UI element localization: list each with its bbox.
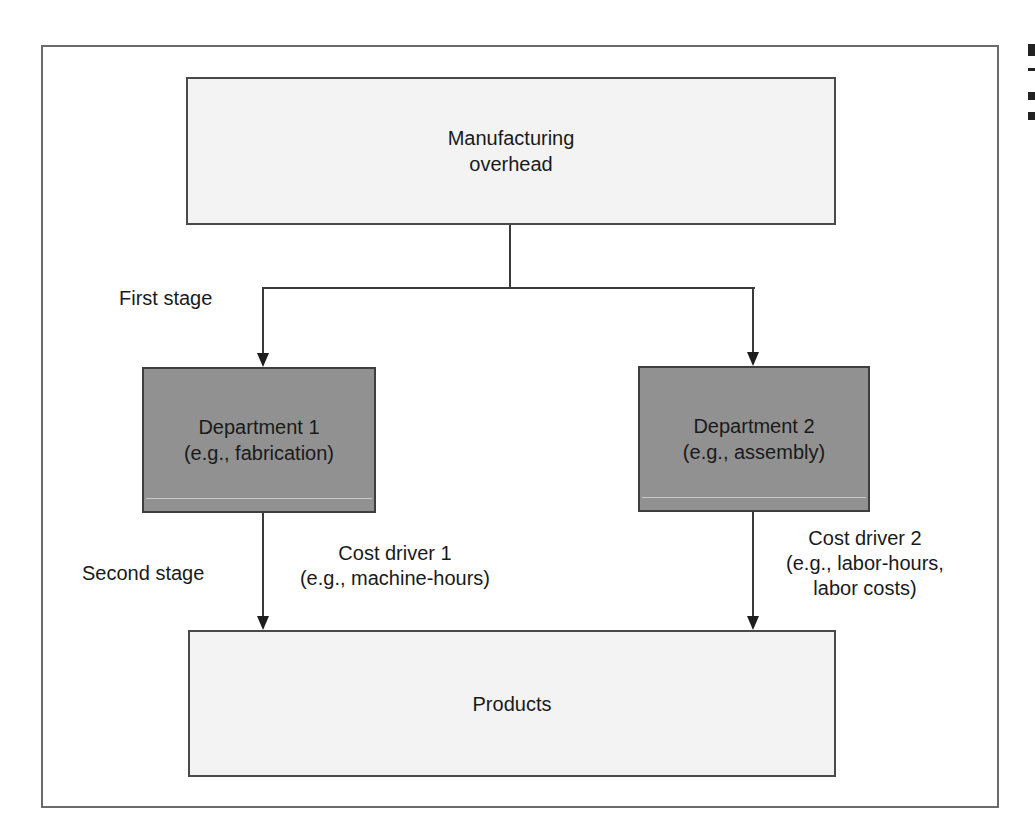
cropped-glyph <box>1028 68 1035 71</box>
cropped-glyph <box>1028 44 1035 56</box>
products-label: Products <box>473 691 552 717</box>
department-1-label: Department 1 (e.g., fabrication) <box>184 414 334 466</box>
box-highlight-line <box>146 498 372 499</box>
cropped-glyph <box>1028 112 1035 120</box>
second-stage-arrow-dept2-shaft <box>752 512 754 617</box>
department-2-label: Department 2 (e.g., assembly) <box>683 413 825 465</box>
department-2-node: Department 2 (e.g., assembly) <box>638 366 870 512</box>
department-1-node: Department 1 (e.g., fabrication) <box>142 367 376 513</box>
second-stage-arrow-dept1-shaft <box>262 513 264 617</box>
first-stage-arrow-dept1-shaft <box>262 288 264 354</box>
cropped-glyph <box>1028 92 1035 100</box>
arrow-down-icon <box>747 616 759 630</box>
box-highlight-line <box>642 497 866 498</box>
manufacturing-overhead-label: Manufacturing overhead <box>448 125 575 177</box>
cost-driver-1-label: Cost driver 1 (e.g., machine-hours) <box>275 541 515 591</box>
products-node: Products <box>188 630 836 777</box>
overhead-connector-vertical <box>509 225 511 289</box>
first-stage-splitter-horizontal <box>262 287 755 289</box>
first-stage-arrow-dept2-shaft <box>752 288 754 353</box>
arrow-down-icon <box>257 616 269 630</box>
second-stage-label: Second stage <box>82 561 204 586</box>
arrow-down-icon <box>257 353 269 367</box>
arrow-down-icon <box>747 352 759 366</box>
first-stage-label: First stage <box>119 286 212 311</box>
cost-driver-2-label: Cost driver 2 (e.g., labor-hours, labor … <box>760 526 970 601</box>
cropped-margin-text <box>1028 40 1035 120</box>
manufacturing-overhead-node: Manufacturing overhead <box>186 77 836 225</box>
